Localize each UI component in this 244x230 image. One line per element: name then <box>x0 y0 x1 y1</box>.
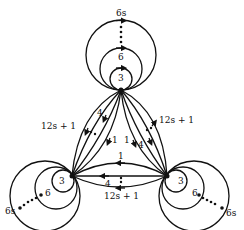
left-label-4: 4 <box>97 108 103 118</box>
top-loop-ellipsis <box>120 26 123 44</box>
br-loop-label-3: 3 <box>178 176 184 186</box>
bottom-label-1: 1 <box>118 151 124 161</box>
arrow-icon <box>220 206 224 210</box>
bottom-edge-bundle: 1 4 12s + 1 <box>72 151 167 201</box>
graph-diagram: 6s 6 3 6s 6 3 6s 6 3 <box>0 0 244 230</box>
bl-loop-label-6: 6 <box>45 188 51 198</box>
bl-loop-label-3: 3 <box>59 176 65 186</box>
bottom-label-12s1: 12s + 1 <box>104 191 139 201</box>
right-label-4: 4 <box>138 140 144 150</box>
vertex-top <box>119 88 124 93</box>
br-loop-label-6s: 6s <box>226 208 237 218</box>
top-loop-label-6: 6 <box>118 52 124 62</box>
br-loop-ellipsis <box>202 197 217 206</box>
bottom-left-loops: 6s 6 3 <box>5 161 80 230</box>
top-loops: 6s 6 3 <box>86 8 156 90</box>
vertex-bottom-left <box>70 174 75 179</box>
bottom-label-4: 4 <box>105 179 111 189</box>
br-loop-label-6: 6 <box>192 188 198 198</box>
arrow-icon <box>197 193 201 197</box>
left-label-12s1: 12s + 1 <box>41 121 76 131</box>
right-label-12s1: 12s + 1 <box>159 115 194 125</box>
arrow-icon <box>39 193 43 197</box>
bottom-right-loops: 6s 6 3 <box>159 161 237 230</box>
left-label-1: 1 <box>112 135 118 145</box>
bl-loop-ellipsis <box>23 197 38 207</box>
bl-loop-label-6s: 6s <box>5 206 16 216</box>
top-loop-label-6s: 6s <box>116 8 127 18</box>
right-label-1: 1 <box>124 135 130 145</box>
top-loop-label-3: 3 <box>118 73 124 83</box>
arrow-icon <box>18 206 22 210</box>
vertex-bottom-right <box>165 174 170 179</box>
